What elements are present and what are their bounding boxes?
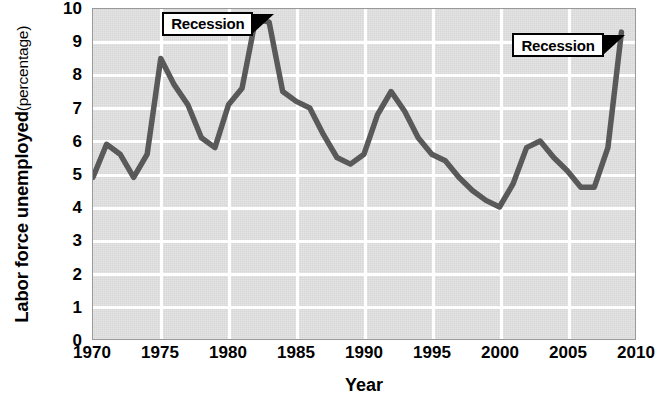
y-axis-title-main: Labor force unemployed xyxy=(11,111,32,322)
x-axis-tick-labels: 197019751980198519901995200020052010 xyxy=(92,344,636,370)
x-axis-tick-1980: 1980 xyxy=(209,344,247,361)
y-axis-tick-3: 3 xyxy=(73,232,82,249)
x-axis-tick-1990: 1990 xyxy=(345,344,383,361)
annotation-recession-1-label: Recession xyxy=(162,12,253,36)
y-axis-title: Labor force unemployed(percentage) xyxy=(0,0,44,348)
y-axis-tick-2: 2 xyxy=(73,265,82,282)
y-axis-tick-4: 4 xyxy=(73,199,82,216)
annotation-recession-2: Recession xyxy=(512,33,624,57)
annotation-recession-2-label: Recession xyxy=(512,33,603,57)
x-axis-title: Year xyxy=(92,376,636,394)
y-axis-tick-5: 5 xyxy=(73,166,82,183)
annotation-pointer-icon xyxy=(252,12,274,36)
annotation-pointer-icon xyxy=(603,33,625,57)
y-axis-tick-labels: 012345678910 xyxy=(46,8,88,340)
annotation-recession-1: Recession xyxy=(162,12,274,36)
plot-area xyxy=(92,8,636,340)
x-axis-tick-2000: 2000 xyxy=(481,344,519,361)
unemployment-line-chart: Labor force unemployed(percentage) 01234… xyxy=(0,0,672,420)
x-axis-tick-1970: 1970 xyxy=(73,344,111,361)
x-axis-tick-2005: 2005 xyxy=(549,344,587,361)
x-axis-tick-1975: 1975 xyxy=(141,344,179,361)
y-axis-tick-1: 1 xyxy=(73,298,82,315)
y-axis-tick-8: 8 xyxy=(73,66,82,83)
x-axis-tick-1985: 1985 xyxy=(277,344,315,361)
y-axis-tick-9: 9 xyxy=(73,33,82,50)
x-axis-tick-2010: 2010 xyxy=(617,344,655,361)
y-axis-title-sub: (percentage) xyxy=(14,26,31,111)
x-axis-tick-1995: 1995 xyxy=(413,344,451,361)
y-axis-tick-10: 10 xyxy=(63,0,82,17)
series-line-layer xyxy=(93,9,635,339)
y-axis-tick-6: 6 xyxy=(73,132,82,149)
y-axis-tick-7: 7 xyxy=(73,99,82,116)
